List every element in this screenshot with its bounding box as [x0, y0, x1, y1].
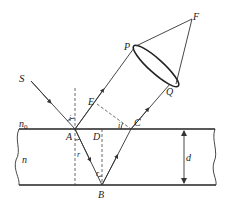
label-angle-i: i	[69, 114, 71, 123]
thickness-arrow-down	[181, 178, 187, 184]
label-E: E	[87, 96, 94, 107]
incident-ray-arrow	[31, 81, 50, 102]
label-B: B	[98, 189, 104, 200]
refraction-angle-arc-A	[75, 139, 80, 140]
film-right-break-edge	[213, 129, 216, 185]
label-P: P	[123, 41, 130, 52]
ray-Q-to-F	[176, 19, 192, 84]
label-d: d	[186, 152, 192, 163]
ray-P-to-F	[136, 19, 192, 46]
diagram-canvas: S A B C D E P Q F n0 n d i r r i	[0, 0, 228, 212]
ray-BC-arrow	[102, 156, 117, 185]
label-Q: Q	[166, 86, 174, 97]
thin-film-diagram: S A B C D E P Q F n0 n d i r r i	[0, 0, 228, 212]
converging-lens	[129, 41, 183, 92]
label-F: F	[192, 11, 200, 22]
label-n-film: n	[22, 154, 27, 165]
film-left-break-edge	[15, 129, 19, 185]
label-angle-C: i	[118, 121, 120, 130]
label-D: D	[92, 131, 101, 142]
thickness-arrow-up	[181, 130, 187, 136]
angle-arc-C	[121, 123, 123, 129]
wavefront-EC	[97, 104, 131, 129]
label-A: A	[65, 131, 73, 142]
label-angle-r-A: r	[77, 150, 81, 159]
label-C: C	[134, 117, 141, 128]
label-S: S	[19, 72, 25, 84]
